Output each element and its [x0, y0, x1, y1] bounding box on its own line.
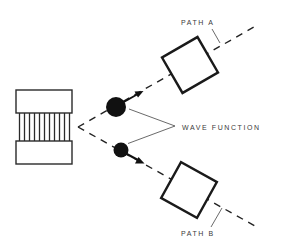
emitter-slits [20, 113, 70, 141]
leader-wave-b [128, 126, 175, 144]
leader-wave-a [129, 109, 175, 126]
emitter-top-plate [16, 90, 72, 113]
particle-a [106, 91, 144, 117]
detector-a [162, 37, 218, 93]
arrow-b-shaft [125, 153, 138, 160]
leader-path-b [211, 208, 222, 227]
label-path-b: PATH B [181, 230, 215, 237]
label-wave-function: WAVE FUNCTION [182, 124, 261, 131]
arrow-a-shaft [122, 95, 137, 104]
leader-path-a [212, 29, 220, 43]
emitter-block [16, 90, 72, 164]
small-ball-icon [114, 143, 129, 158]
path-b-line [78, 127, 255, 226]
emitter-bottom-plate [16, 141, 72, 164]
particle-b [114, 143, 145, 164]
label-path-a: PATH A [181, 19, 214, 26]
wave-function-diagram: PATH A WAVE FUNCTION PATH B [0, 0, 287, 252]
path-a-line [78, 27, 254, 127]
detector-b [161, 162, 217, 218]
large-ball-icon [106, 97, 126, 117]
